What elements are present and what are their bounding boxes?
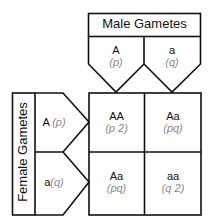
allele-frequency: (p) <box>52 116 65 128</box>
female-gametes-title: Female Gametes <box>17 91 29 213</box>
cell-Aa-bottom: Aa (pq) <box>89 170 144 194</box>
genotype: AA <box>89 110 144 122</box>
allele-frequency: (q) <box>50 176 63 188</box>
genotype: Aa <box>145 110 201 122</box>
allele-label: A <box>88 44 144 56</box>
allele-label: a <box>144 44 200 56</box>
allele-frequency: (q) <box>144 56 200 68</box>
male-gamete-a: a (q) <box>144 44 200 68</box>
allele-label: A <box>42 116 49 128</box>
cell-aa: aa (q 2) <box>145 170 201 194</box>
cell-Aa-top: Aa (pq) <box>145 110 201 134</box>
genotype-frequency: (q 2) <box>145 182 201 194</box>
male-gamete-A: A (p) <box>88 44 144 68</box>
genotype-frequency: (pq) <box>89 182 144 194</box>
allele-frequency: (p) <box>88 56 144 68</box>
female-gamete-A: A (p) <box>36 116 72 128</box>
genotype-frequency: (pq) <box>145 122 201 134</box>
genotype: aa <box>145 170 201 182</box>
male-gametes-title: Male Gametes <box>88 18 201 30</box>
cell-AA: AA (p 2) <box>89 110 144 134</box>
genotype-frequency: (p 2) <box>89 122 144 134</box>
genotype: Aa <box>89 170 144 182</box>
female-gamete-a: a(q) <box>36 176 72 188</box>
